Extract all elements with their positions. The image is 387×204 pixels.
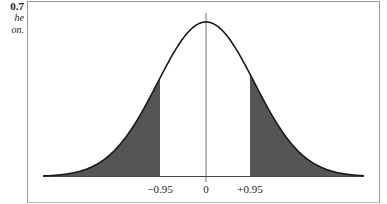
- normal-distribution-chart: −0.95 0 +0.95: [0, 0, 387, 204]
- normal-curve: [43, 22, 364, 176]
- tick-label-zero: 0: [203, 183, 209, 195]
- right-tail-shade: [250, 74, 364, 176]
- tick-label-pos: +0.95: [237, 183, 263, 195]
- tick-label-neg: −0.95: [147, 183, 173, 195]
